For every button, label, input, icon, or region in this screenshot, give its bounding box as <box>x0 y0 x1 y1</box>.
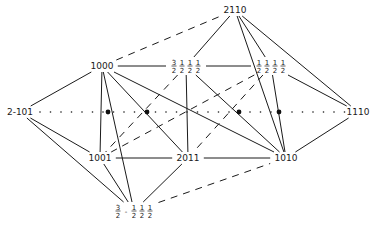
axis-dot <box>81 111 83 113</box>
solid-edge-n2110-n1010 <box>237 16 284 152</box>
axis-dot <box>165 111 167 113</box>
fraction-denominator: 2 <box>188 67 192 75</box>
solid-edge-n1110-n1010 <box>295 118 348 152</box>
axis-dot <box>39 111 41 113</box>
solid-edge-n1000-n1001 <box>100 72 102 152</box>
axis-dot <box>260 111 262 113</box>
fraction-numerator: 1 <box>132 204 136 212</box>
node-label: 2110 <box>224 5 247 15</box>
solid-edges <box>27 16 351 202</box>
dashed-edge-nC-n1001 <box>106 75 178 152</box>
fraction-numerator: 1 <box>196 59 200 67</box>
dashed-edge-nD-n2011 <box>193 75 263 152</box>
node-label: 1000 <box>91 61 114 71</box>
axis-dot <box>186 111 188 113</box>
filled-point <box>237 110 242 115</box>
node-label: 1001 <box>89 153 112 163</box>
fraction-denominator: 2 <box>140 212 144 220</box>
node-label: 2-101 <box>7 107 33 117</box>
fraction-denominator: 2 <box>180 67 184 75</box>
dashed-edge-nJ-n1010 <box>159 164 271 203</box>
node-nC: 32121212 <box>172 59 201 76</box>
fraction-denominator: 2 <box>273 67 277 75</box>
fraction-numerator: 1 <box>188 59 192 67</box>
node-label: 1110 <box>347 107 370 117</box>
dashed-edge-n1000-n2110 <box>116 16 221 60</box>
node-n2011: 2011 <box>177 153 200 163</box>
axis-dot <box>71 111 73 113</box>
axis-dot <box>123 111 125 113</box>
fraction-numerator: 1 <box>257 59 261 67</box>
node-label: 1010 <box>275 153 298 163</box>
fraction-denominator: 2 <box>196 67 200 75</box>
axis-dot <box>249 111 251 113</box>
node-n2110: 2110 <box>224 5 247 15</box>
solid-edge-n2110-nC <box>194 16 230 57</box>
filled-point <box>145 110 150 115</box>
axis-dot <box>228 111 230 113</box>
fraction-denominator: 2 <box>281 67 285 75</box>
graph-diagram: 2110100032121212121212122-10111101001201… <box>0 0 380 225</box>
node-n1110: 1110 <box>347 107 370 117</box>
axis-dot <box>333 111 335 113</box>
minus-sign: - <box>125 208 128 216</box>
fraction-denominator: 2 <box>148 212 152 220</box>
axis-dot <box>134 111 136 113</box>
axis-dot <box>218 111 220 113</box>
fraction-numerator: 1 <box>273 59 277 67</box>
node-n2m101: 2-101 <box>7 107 33 117</box>
fraction-denominator: 2 <box>265 67 269 75</box>
axis-dot <box>176 111 178 113</box>
axis-dot <box>102 111 104 113</box>
axis-dot <box>197 111 199 113</box>
fraction-denominator: 2 <box>172 67 176 75</box>
node-n1010: 1010 <box>275 153 298 163</box>
fraction-numerator: 3 <box>116 204 120 212</box>
dashed-edge-nD-n1001 <box>111 75 254 152</box>
axis-dot <box>60 111 62 113</box>
node-label: 2011 <box>177 153 200 163</box>
axis-dot <box>50 111 52 113</box>
solid-edge-nD-n1110 <box>288 75 347 106</box>
node-n1001: 1001 <box>89 153 112 163</box>
fraction-numerator: 1 <box>180 59 184 67</box>
axis-dot <box>312 111 314 113</box>
fraction-numerator: 3 <box>172 59 176 67</box>
solid-edge-nC-n2011 <box>186 75 188 152</box>
filled-point <box>277 110 282 115</box>
fraction-numerator: 1 <box>281 59 285 67</box>
fraction-denominator: 2 <box>132 212 136 220</box>
axis-dot <box>302 111 304 113</box>
axis-dot <box>291 111 293 113</box>
fraction-denominator: 2 <box>116 212 120 220</box>
filled-point <box>106 110 111 115</box>
solid-edge-n2m101-n1000 <box>31 72 92 106</box>
axis-dot <box>344 111 346 113</box>
fraction-numerator: 1 <box>148 204 152 212</box>
dotted-axis <box>39 110 345 115</box>
node-n1000: 1000 <box>91 61 114 71</box>
fraction-numerator: 1 <box>140 204 144 212</box>
fraction-denominator: 2 <box>257 67 261 75</box>
axis-dot <box>155 111 157 113</box>
solid-edge-n1000-nJ <box>103 72 132 202</box>
axis-dot <box>113 111 115 113</box>
fraction-numerator: 1 <box>265 59 269 67</box>
axis-dot <box>92 111 94 113</box>
axis-dot <box>207 111 209 113</box>
solid-edge-n2110-nD <box>239 16 265 57</box>
node-nD: 12121212 <box>257 59 286 76</box>
node-nJ: 32-121212 <box>116 204 153 221</box>
axis-dot <box>270 111 272 113</box>
axis-dot <box>323 111 325 113</box>
